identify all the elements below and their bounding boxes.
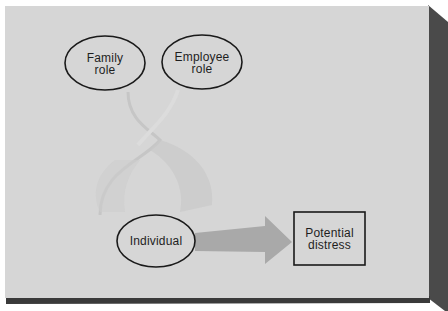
- diagram-canvas: Family role Employee role Individual Pot…: [0, 0, 448, 311]
- diagram-graphics: [0, 0, 448, 311]
- panel-side-face: [428, 5, 448, 311]
- employee-role-label: Employee role: [162, 51, 242, 75]
- individual-label: Individual: [117, 235, 195, 247]
- potential-distress-label: Potential distress: [294, 227, 365, 251]
- family-role-label: Family role: [65, 52, 145, 76]
